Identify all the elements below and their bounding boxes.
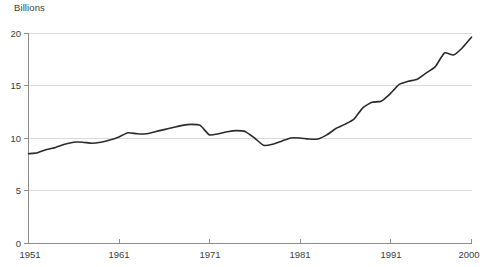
- y-axis: 20 15 10 5 0: [10, 28, 28, 249]
- gridlines: [28, 33, 472, 191]
- data-series-line: [29, 37, 472, 154]
- x-axis: 1951 1961 1971 1981 1991 2000: [19, 239, 479, 260]
- chart-container: Billions 20 15 10 5 0: [0, 0, 485, 267]
- y-tick-label-5: 5: [16, 185, 21, 196]
- x-tick-label-1961: 1961: [108, 249, 129, 260]
- y-tick-label-20: 20: [10, 28, 21, 39]
- x-tick-label-1951: 1951: [19, 249, 40, 260]
- x-tick-label-1991: 1991: [380, 249, 401, 260]
- x-tick-label-1981: 1981: [289, 249, 310, 260]
- y-tick-label-15: 15: [10, 80, 21, 91]
- x-tick-label-2000: 2000: [458, 249, 479, 260]
- line-chart-plot: 20 15 10 5 0 1951 1961 1971 1981 1991 20…: [0, 0, 485, 267]
- y-tick-label-10: 10: [10, 133, 21, 144]
- y-tick-label-0: 0: [16, 238, 21, 249]
- x-tick-label-1971: 1971: [199, 249, 220, 260]
